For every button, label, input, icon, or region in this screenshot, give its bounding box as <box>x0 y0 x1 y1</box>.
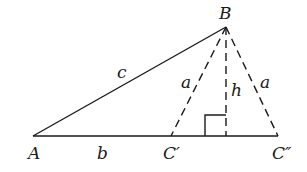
right-angle-marker <box>205 115 226 136</box>
side-c-AB <box>33 27 226 136</box>
label-a-left: a <box>181 72 191 92</box>
label-a-right: a <box>260 72 270 92</box>
label-C-double-prime: C″ <box>272 143 292 163</box>
triangle-diagram: B A b C′ C″ c a h a <box>0 0 307 172</box>
label-C-prime: C′ <box>163 143 180 163</box>
label-b: b <box>97 143 108 163</box>
label-h: h <box>231 80 242 100</box>
side-a-B-C1 <box>171 27 226 136</box>
label-B: B <box>218 3 232 23</box>
label-c: c <box>117 62 127 82</box>
label-A: A <box>26 143 40 163</box>
